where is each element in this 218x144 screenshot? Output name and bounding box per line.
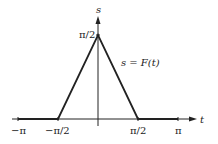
t-axis-label: t <box>200 114 205 125</box>
x-tick-label-neg-pi: −π <box>11 125 26 136</box>
y-tick-label-half-pi: π/2 <box>79 29 95 40</box>
s-axis-label: s <box>96 4 101 15</box>
x-tick-label-half-pi: π/2 <box>130 125 146 136</box>
t-axis-arrow-icon <box>189 117 197 122</box>
s-axis-arrow-icon <box>96 16 101 24</box>
triangle-function-plot: s t π/2 s = F(t) −π −π/2 π/2 π <box>0 0 218 144</box>
x-tick-label-neg-half-pi: −π/2 <box>45 125 70 136</box>
x-tick-label-pi: π <box>175 125 182 136</box>
curve-label: s = F(t) <box>121 57 160 68</box>
